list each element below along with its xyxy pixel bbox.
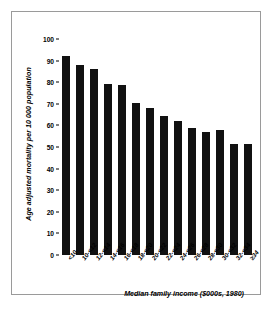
bar xyxy=(188,128,197,255)
bar xyxy=(216,130,225,255)
y-tick-label: 70 xyxy=(47,100,54,107)
y-tick-label: 30 xyxy=(47,187,54,194)
y-tick-label: 10 xyxy=(47,230,54,237)
bar xyxy=(146,108,155,255)
bar xyxy=(104,84,113,255)
y-tick-label: 60 xyxy=(47,122,54,129)
bar xyxy=(132,103,141,255)
plot-area xyxy=(59,39,255,255)
x-axis-title: Median family income ($000s, 1980) xyxy=(124,290,244,298)
bar xyxy=(202,132,211,255)
bar xyxy=(90,69,99,255)
bar xyxy=(62,56,71,255)
y-axis-ticks: 0102030405060708090100 xyxy=(38,39,59,255)
bar xyxy=(160,116,169,255)
bar xyxy=(244,144,253,255)
y-tick-label: 100 xyxy=(43,36,54,43)
y-tick-label: 0 xyxy=(50,252,54,259)
y-tick-label: 40 xyxy=(47,165,54,172)
figure-frame: Age adjusted mortality per 10 000 popula… xyxy=(11,11,261,295)
x-axis-tick-labels: <1010-<1212-<1414-<1616-<1818-<2020-<222… xyxy=(59,257,255,291)
figure-root: Age adjusted mortality per 10 000 popula… xyxy=(0,0,271,312)
y-tick-label: 80 xyxy=(47,79,54,86)
bar xyxy=(230,144,239,255)
bar xyxy=(76,65,85,255)
y-tick-label: 50 xyxy=(47,144,54,151)
y-tick-label: 90 xyxy=(47,57,54,64)
bar xyxy=(174,121,183,255)
y-axis-title: Age adjusted mortality per 10 000 popula… xyxy=(25,54,33,234)
bar xyxy=(118,85,127,255)
y-tick-label: 20 xyxy=(47,208,54,215)
